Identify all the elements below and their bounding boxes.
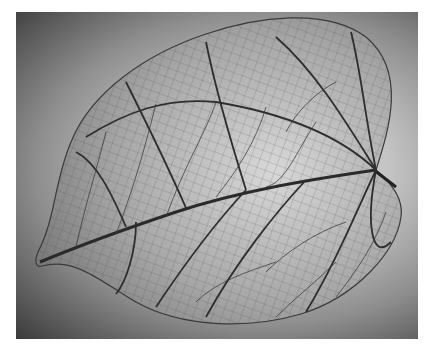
leaf-skeleton-image [16,12,418,339]
leaf-photo [16,12,418,339]
